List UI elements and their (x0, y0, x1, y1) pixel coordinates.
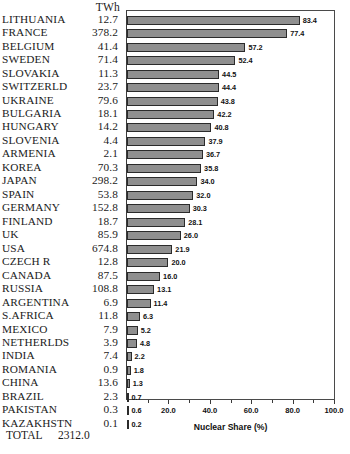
country-name: ARGENTINA (2, 296, 69, 310)
table-row: BELGIUM41.4 (0, 40, 122, 54)
bar-value-label: 2.2 (135, 352, 145, 361)
country-name: JAPAN (2, 174, 37, 188)
table-row: ARMENIA2.1 (0, 147, 122, 161)
twh-value: 11.3 (98, 67, 118, 81)
country-name: HUNGARY (2, 120, 59, 134)
table-row: USA674.8 (0, 242, 122, 256)
bar-value-label: 52.4 (238, 56, 252, 65)
twh-value: 378.2 (92, 26, 118, 40)
bar (127, 97, 218, 106)
country-name: SLOVENIA (2, 134, 60, 148)
plot-area: 83.477.457.252.444.544.443.842.240.837.9… (126, 10, 335, 400)
bar (127, 245, 172, 254)
axis-minor-tick (231, 400, 232, 403)
bar-value-label: 32.0 (196, 191, 210, 200)
twh-value: 0.3 (104, 403, 118, 417)
bar-value-label: 44.5 (222, 70, 236, 79)
twh-value: 41.4 (98, 40, 118, 54)
axis-minor-tick (148, 400, 149, 403)
axis-tick-label: 60.0 (244, 406, 259, 415)
twh-value: 85.9 (98, 228, 118, 242)
twh-value: 298.2 (92, 174, 118, 188)
bar (127, 56, 235, 65)
country-name: ROMANIA (2, 363, 57, 377)
bar-value-label: 44.4 (222, 83, 236, 92)
table-row: UKRAINE79.6 (0, 94, 122, 108)
bar (127, 258, 168, 267)
bar (127, 29, 287, 38)
bar (127, 123, 211, 132)
bar (127, 43, 245, 52)
twh-value: 11.8 (98, 309, 118, 323)
bar-value-label: 6.3 (143, 312, 153, 321)
twh-value: 14.2 (98, 120, 118, 134)
table-row: JAPAN298.2 (0, 174, 122, 188)
table-row: SPAIN53.8 (0, 188, 122, 202)
bar (127, 326, 138, 335)
bar-value-label: 37.9 (208, 137, 222, 146)
twh-value: 70.3 (98, 161, 118, 175)
table-row: RUSSIA108.8 (0, 282, 122, 296)
bar-value-label: 4.8 (140, 339, 150, 348)
table-row: KOREA70.3 (0, 161, 122, 175)
country-name: BELGIUM (2, 40, 55, 54)
bar-value-label: 57.2 (248, 43, 262, 52)
country-name: CZECH R (2, 255, 50, 269)
twh-column-header: TWh (0, 1, 120, 13)
twh-value: 3.9 (104, 336, 118, 350)
country-name: ARMENIA (2, 147, 56, 161)
bar (127, 285, 154, 294)
chart-page: TWh LITHUANIA12.7FRANCE378.2BELGIUM41.4S… (0, 0, 350, 454)
country-name: CANADA (2, 269, 51, 283)
table-row: CANADA87.5 (0, 269, 122, 283)
total-row: TOTAL 2312.0 (0, 428, 122, 443)
country-name: LITHUANIA (2, 13, 65, 27)
twh-value: 4.4 (104, 134, 118, 148)
country-name: GERMANY (2, 201, 60, 215)
twh-value: 12.7 (98, 13, 118, 27)
bar (127, 70, 219, 79)
bar-value-label: 1.8 (134, 366, 144, 375)
bar (127, 272, 160, 281)
bar-value-label: 40.8 (214, 123, 228, 132)
country-name: RUSSIA (2, 282, 43, 296)
bar-value-label: 26.0 (184, 231, 198, 240)
table-row: SLOVAKIA11.3 (0, 67, 122, 81)
bar (127, 191, 193, 200)
bar-value-label: 34.0 (200, 177, 214, 186)
country-name: KOREA (2, 161, 42, 175)
bar-value-label: 36.7 (206, 150, 220, 159)
country-name: S.AFRICA (2, 309, 54, 323)
bar (127, 339, 137, 348)
bar (127, 204, 190, 213)
twh-value: 13.6 (98, 376, 118, 390)
bar (127, 366, 131, 375)
twh-value: 152.8 (92, 201, 118, 215)
bar-value-label: 83.4 (303, 16, 317, 25)
country-name: BRAZIL (2, 390, 44, 404)
table-row: GERMANY152.8 (0, 201, 122, 215)
table-row: SLOVENIA4.4 (0, 134, 122, 148)
country-name: SLOVAKIA (2, 67, 59, 81)
bar (127, 379, 130, 388)
axis-tick-label: 100.0 (324, 406, 343, 415)
twh-value: 7.9 (104, 323, 118, 337)
twh-value: 0.9 (104, 363, 118, 377)
country-name: UK (2, 228, 19, 242)
axis-minor-tick (272, 400, 273, 403)
twh-value: 71.4 (98, 53, 118, 67)
twh-value: 6.9 (104, 296, 118, 310)
bar-value-label: 13.1 (157, 285, 171, 294)
country-name: SWITZERLD (2, 80, 67, 94)
country-name: SPAIN (2, 188, 34, 202)
bar (127, 137, 205, 146)
table-row: ROMANIA0.9 (0, 363, 122, 377)
country-name: UKRAINE (2, 94, 54, 108)
country-name: INDIA (2, 349, 35, 363)
axis-tick (293, 400, 294, 404)
table-row: ARGENTINA6.9 (0, 296, 122, 310)
country-table: TWh LITHUANIA12.7FRANCE378.2BELGIUM41.4S… (0, 0, 126, 454)
total-value: 2312.0 (58, 428, 90, 443)
bar (127, 83, 219, 92)
bar (127, 352, 132, 361)
